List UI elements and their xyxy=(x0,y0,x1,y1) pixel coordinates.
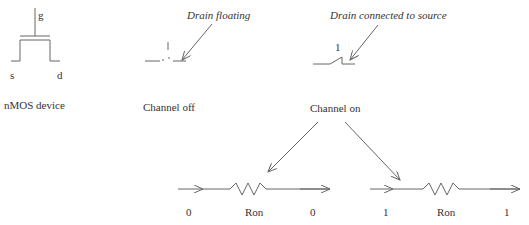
source-label: s xyxy=(10,69,14,81)
resistor-left-input-value: 0 xyxy=(186,206,192,218)
nmos-symbol xyxy=(11,8,60,61)
drain-connected-arrow xyxy=(350,25,378,60)
resistor-left-circuit xyxy=(178,183,330,195)
channel-on-gate-value: 1 xyxy=(335,41,341,53)
drain-label: d xyxy=(57,69,63,81)
resistor-right-circuit xyxy=(370,183,520,195)
drain-floating-annotation: Drain floating xyxy=(187,9,250,21)
nmos-caption: nMOS device xyxy=(4,99,65,111)
channel-off-caption: Channel off xyxy=(143,101,195,113)
drain-floating-arrow xyxy=(182,24,212,60)
resistor-right-output-value: 1 xyxy=(504,206,510,218)
channel-on-caption: Channel on xyxy=(310,102,360,114)
drain-connected-annotation: Drain connected to source xyxy=(330,9,447,21)
switch-on-symbol xyxy=(313,57,355,64)
diagram-canvas: g s d nMOS device Drain floating Channel… xyxy=(0,0,529,225)
resistor-right-label: Ron xyxy=(437,206,455,218)
switch-off-symbol xyxy=(145,42,186,61)
channel-on-right-arrow xyxy=(345,122,400,180)
resistor-left-output-value: 0 xyxy=(310,206,316,218)
resistor-left-label: Ron xyxy=(245,206,263,218)
channel-on-left-arrow xyxy=(268,122,318,172)
channel-body xyxy=(11,40,60,61)
resistor-right-input-value: 1 xyxy=(383,206,389,218)
gate-label: g xyxy=(38,9,44,21)
